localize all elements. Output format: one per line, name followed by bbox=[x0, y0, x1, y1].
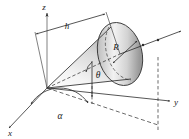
z-axis-label: z bbox=[41, 2, 46, 12]
cone-axis-base-point bbox=[142, 44, 144, 46]
height-dimension-line bbox=[36, 14, 105, 34]
x-axis-line bbox=[9, 88, 47, 128]
height-extension-left bbox=[35, 32, 47, 88]
cone-coordinate-diagram: h R θ α z y x bbox=[0, 0, 189, 139]
diagram-canvas: h R θ α z y x bbox=[0, 0, 189, 139]
radius-label: R bbox=[112, 42, 119, 52]
alpha-label: α bbox=[58, 111, 64, 121]
x-axis-label: x bbox=[7, 128, 12, 138]
theta-label: θ bbox=[96, 70, 101, 80]
y-axis-line bbox=[47, 88, 170, 101]
y-axis-label: y bbox=[173, 97, 178, 107]
alpha-angle-group: α bbox=[31, 88, 88, 121]
cone-axis-outer-point bbox=[157, 39, 159, 41]
height-label: h bbox=[65, 21, 70, 31]
